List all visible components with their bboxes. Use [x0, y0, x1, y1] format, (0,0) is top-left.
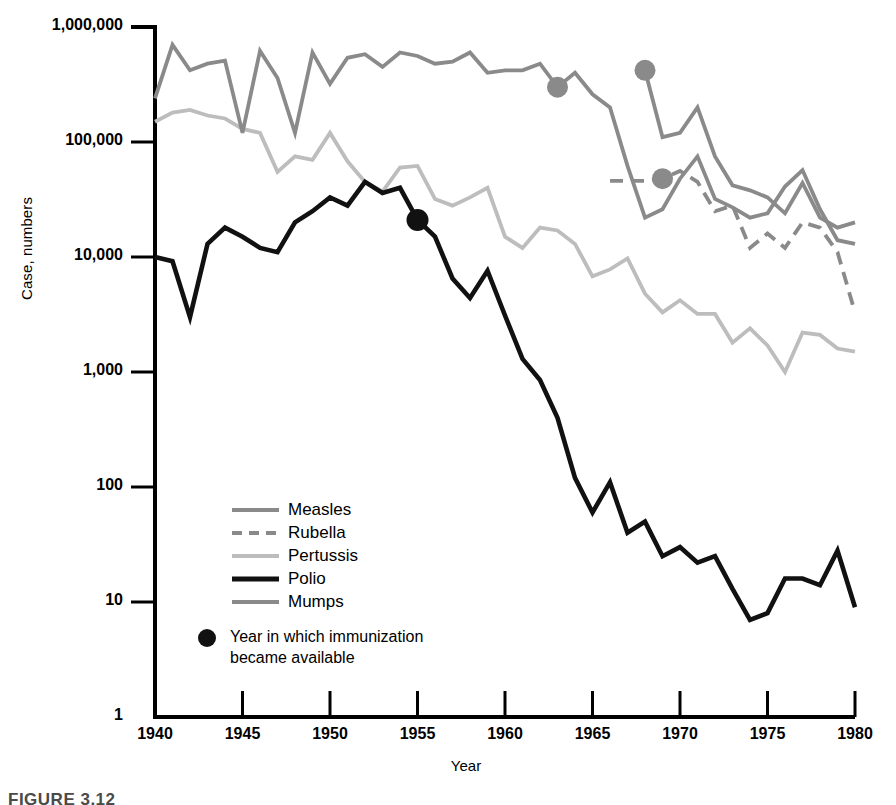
series-line-measles [155, 45, 855, 244]
legend-swatch-icon [232, 498, 279, 521]
legend-label: Polio [288, 567, 326, 590]
x-axis-tick-label: 1950 [290, 725, 370, 743]
y-axis-tick-label: 1,000 [0, 361, 123, 379]
figure-caption: FIGURE 3.12 [8, 790, 116, 805]
series-line-pertussis [155, 110, 855, 372]
y-axis-tick-label: 1,000,000 [0, 16, 123, 34]
legend-label: Rubella [288, 521, 346, 544]
x-axis-title: Year [406, 757, 526, 774]
series-line-rubella [610, 171, 855, 312]
legend-item-pertussis: Pertussis [232, 544, 358, 567]
immunization-note: Year in which immunization became availa… [198, 626, 423, 668]
figure-container: Case, numbers 1,000,000100,00010,0001,00… [0, 0, 896, 805]
x-axis-tick-label: 1965 [553, 725, 633, 743]
y-axis-tick-label: 1 [0, 706, 123, 724]
x-axis-tick-label: 1975 [728, 725, 808, 743]
chart-legend: MeaslesRubellaPertussisPolioMumps [232, 498, 358, 613]
x-axis-tick-label: 1970 [640, 725, 720, 743]
y-axis-tick-label: 100,000 [0, 131, 123, 149]
immunization-marker-icon [198, 629, 216, 647]
legend-label: Pertussis [288, 544, 358, 567]
x-axis-tick-label: 1940 [115, 725, 195, 743]
y-axis-tick-label: 10 [0, 591, 123, 609]
legend-item-rubella: Rubella [232, 521, 358, 544]
immunization-dot-rubella [652, 168, 673, 189]
legend-label: Measles [288, 498, 351, 521]
legend-item-measles: Measles [232, 498, 358, 521]
y-axis-tick-label: 100 [0, 476, 123, 494]
legend-label: Mumps [288, 590, 344, 613]
x-axis-tick-label: 1960 [465, 725, 545, 743]
legend-item-polio: Polio [232, 567, 358, 590]
legend-swatch-icon [232, 544, 279, 567]
legend-item-mumps: Mumps [232, 590, 358, 613]
x-axis-tick-label: 1945 [203, 725, 283, 743]
legend-swatch-icon [232, 521, 279, 544]
y-axis-title: Case, numbers [18, 100, 35, 300]
x-axis-tick-label: 1955 [378, 725, 458, 743]
legend-swatch-icon [232, 590, 279, 613]
y-axis-tick-label: 10,000 [0, 246, 123, 264]
immunization-dot-measles [547, 77, 568, 98]
immunization-dot-mumps [635, 60, 656, 81]
immunization-note-text: Year in which immunization became availa… [230, 626, 423, 668]
series-line-mumps [645, 70, 855, 227]
chart-plot-area [0, 0, 896, 805]
immunization-dot-polio [407, 209, 429, 231]
x-axis-tick-label: 1980 [815, 725, 895, 743]
legend-swatch-icon [232, 567, 279, 590]
